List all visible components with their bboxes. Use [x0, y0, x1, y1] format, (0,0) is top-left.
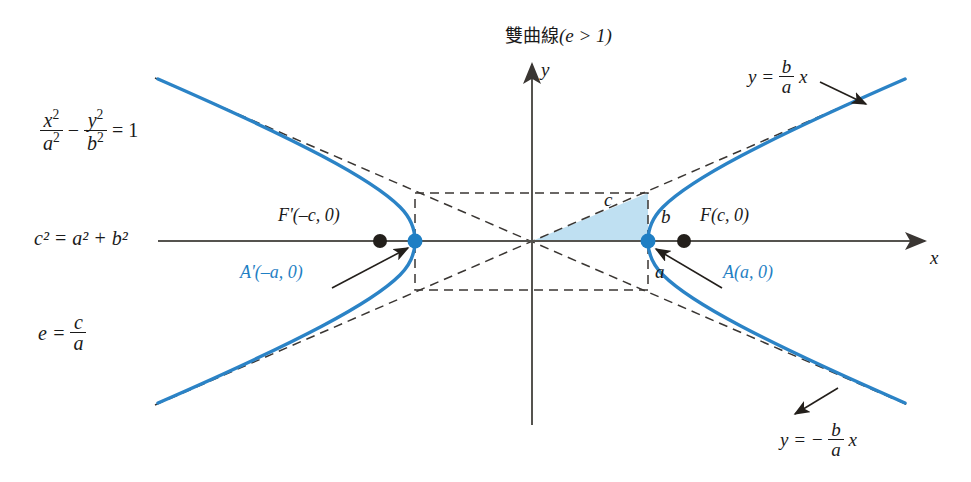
pythagorean-relation: c² = a² + b²: [34, 228, 128, 248]
minus-sign: −: [68, 120, 79, 140]
lower-asymptote-equation: y = − b a x: [780, 420, 857, 459]
hyperbola-figure: 雙曲線(e > 1) y x x2 a2 − y2 b2 = 1 c² = a²…: [0, 0, 971, 482]
upper-asymptote-variable: x: [799, 67, 807, 86]
term-y-over-b: y2 b2: [84, 108, 107, 152]
numerator-c: c: [70, 312, 86, 333]
right-focus-dot: [677, 234, 691, 248]
right-focus-label: F(c, 0): [700, 206, 749, 224]
y-axis-label: y: [541, 60, 549, 79]
triangle-hypotenuse-label: c: [604, 190, 612, 209]
figure-title-cjk: 雙曲線: [505, 25, 559, 46]
term-x-over-a: x2 a2: [40, 108, 63, 152]
eccentricity-equation: e = c a: [38, 312, 86, 353]
upper-numerator-b: b: [779, 57, 795, 77]
right-vertex-label: A(a, 0): [723, 263, 773, 281]
numerator-y: y2: [84, 108, 107, 131]
c-over-a: c a: [70, 312, 86, 353]
left-focus-label: F'(–c, 0): [278, 206, 340, 224]
eccentricity-lhs: e =: [38, 323, 65, 343]
right-vertex-dot: [641, 234, 656, 249]
upper-denominator-a: a: [779, 77, 795, 96]
left-vertex-leader: [332, 248, 408, 288]
upper-asymptote-leader: [820, 82, 866, 104]
denominator-a: a: [70, 333, 86, 353]
lower-denominator-a: a: [828, 440, 844, 459]
figure-title-condition: (e > 1): [559, 25, 612, 46]
denominator-b: b2: [84, 131, 107, 153]
left-vertex-dot: [408, 234, 423, 249]
lower-numerator-b: b: [828, 420, 844, 440]
standard-form-equation: x2 a2 − y2 b2 = 1: [40, 108, 138, 152]
upper-slope-fraction: b a: [779, 57, 795, 96]
triangle-vertical-leg-label: b: [661, 207, 671, 226]
triangle-horizontal-leg-label: a: [655, 262, 665, 281]
upper-asymptote-equation: y = b a x: [748, 57, 807, 96]
shaded-right-triangle: [532, 193, 648, 241]
numerator-x: x2: [40, 108, 63, 131]
x-axis-label: x: [930, 248, 938, 267]
right-vertex-leader: [656, 249, 722, 288]
equals-one: = 1: [112, 120, 138, 140]
lower-asymptote-lhs: y = −: [780, 430, 824, 449]
lower-slope-fraction: b a: [828, 420, 844, 459]
lower-asymptote-leader: [795, 388, 838, 414]
upper-asymptote-lhs: y =: [748, 67, 774, 86]
figure-title: 雙曲線(e > 1): [505, 26, 612, 45]
left-focus-dot: [373, 234, 387, 248]
denominator-a: a2: [40, 131, 63, 153]
left-vertex-label: A'(–a, 0): [240, 263, 303, 281]
figure-canvas: [0, 0, 971, 482]
lower-asymptote-variable: x: [849, 430, 857, 449]
